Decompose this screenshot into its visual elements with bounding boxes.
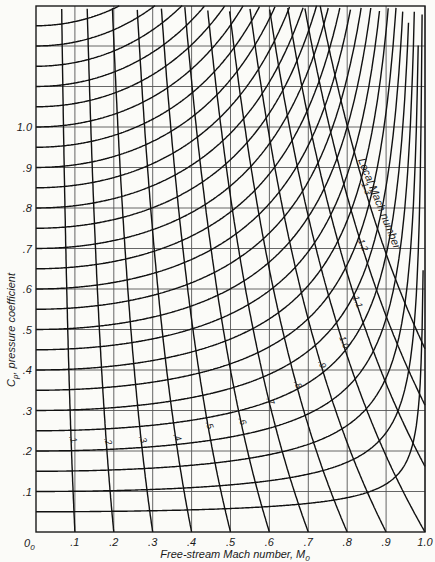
local-mach-label: .9	[316, 359, 328, 370]
local-mach-label: .8	[292, 379, 304, 390]
y-tick-label: .2	[23, 445, 32, 457]
x-tick-label: .1	[70, 536, 79, 548]
local-mach-label: 1.2	[356, 237, 370, 252]
local-mach-label: 1.0	[337, 335, 351, 350]
x-tick-label: 1.0	[417, 536, 433, 548]
pressure-coefficient-chart: .1.2.3.4.5.6.7.8.91.0 .1.2.3.4.5.6.7.8.9…	[0, 0, 435, 562]
y-tick-label: .7	[23, 243, 33, 255]
local-mach-curve	[161, 9, 230, 532]
x-axis-title: Free-stream Mach number, M0	[160, 548, 310, 562]
x-tick-label: .8	[343, 536, 353, 548]
grid-lines	[36, 6, 425, 532]
local-mach-label: 1.1	[351, 294, 365, 309]
x-tick-label: .7	[304, 536, 314, 548]
y-axis-ticks: .1.2.3.4.5.6.7.8.91.0	[17, 121, 33, 498]
constant-cp-curve	[36, 6, 182, 67]
x-tick-label: .2	[109, 536, 118, 548]
local-mach-label: .4	[171, 432, 183, 443]
y-tick-label: 1.0	[17, 121, 33, 133]
local-mach-curve	[62, 9, 75, 532]
local-mach-label: .6	[236, 416, 248, 427]
local-mach-label: .5	[204, 420, 216, 432]
x-tick-label: .9	[382, 536, 391, 548]
x-axis-ticks: .1.2.3.4.5.6.7.8.91.0	[70, 536, 433, 548]
constant-cp-curve	[36, 8, 328, 249]
y-tick-label: .3	[23, 405, 33, 417]
origin-label: 00	[24, 537, 35, 552]
constant-cp-curve	[36, 10, 351, 289]
local-mach-curve	[250, 9, 386, 532]
local-mach-label: .3	[137, 434, 149, 445]
x-tick-label: .4	[187, 536, 196, 548]
constant-cp-curve	[36, 8, 396, 390]
local-mach-label: .2	[102, 436, 114, 447]
y-tick-label: .1	[23, 486, 32, 498]
x-tick-label: .5	[226, 536, 236, 548]
local-mach-curve	[230, 11, 348, 532]
local-mach-curve	[87, 9, 114, 532]
constant-cp-curves	[36, 6, 423, 512]
local-mach-curve	[137, 10, 191, 532]
constant-cp-curve	[36, 6, 243, 127]
y-axis-title: Cp, pressure coefficient	[5, 272, 20, 387]
constant-cp-curve	[36, 8, 361, 309]
local-mach-label: .1	[67, 434, 79, 445]
constant-cp-curve	[36, 6, 119, 26]
y-tick-label: .9	[23, 162, 32, 174]
y-tick-label: .4	[23, 364, 32, 376]
local-mach-curves	[62, 6, 425, 532]
x-tick-label: .3	[148, 536, 158, 548]
y-tick-label: .8	[23, 202, 33, 214]
constant-cp-curve	[36, 8, 371, 330]
x-tick-label: .6	[265, 536, 275, 548]
y-tick-label: .5	[23, 324, 33, 336]
constant-cp-curve	[36, 12, 403, 411]
local-mach-curve	[185, 7, 270, 532]
y-tick-label: .6	[23, 283, 33, 295]
